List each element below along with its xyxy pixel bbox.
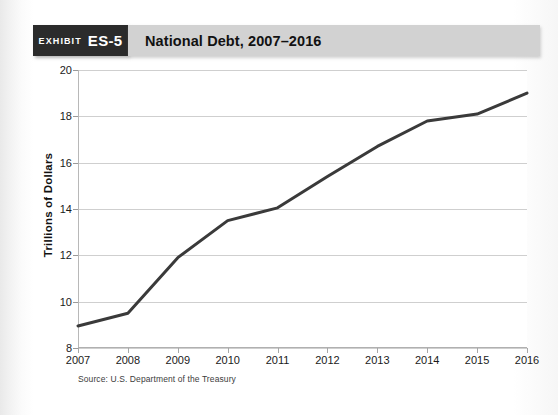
x-tick-label-2007: 2007 — [66, 354, 90, 366]
exhibit-label: EXHIBIT — [39, 36, 82, 46]
x-tick-mark-2016 — [527, 348, 528, 353]
source-note: Source: U.S. Department of the Treasury — [78, 374, 236, 384]
x-tick-label-2012: 2012 — [315, 354, 339, 366]
exhibit-header: EXHIBIT ES-5 National Debt, 2007–2016 — [33, 25, 540, 56]
y-tick-label-12: 12 — [60, 249, 72, 261]
y-axis-title: Trillions of Dollars — [39, 62, 57, 348]
x-tick-label-2013: 2013 — [365, 354, 389, 366]
x-tick-mark-2008 — [128, 348, 129, 353]
plot-canvas: 8101214161820 20072008200920102011201220… — [78, 70, 527, 348]
exhibit-badge: EXHIBIT ES-5 — [33, 25, 128, 56]
x-tick-mark-2013 — [377, 348, 378, 353]
gridline-y-8 — [78, 348, 527, 349]
x-tick-label-2015: 2015 — [465, 354, 489, 366]
data-series-national-debt — [78, 70, 527, 348]
y-tick-label-8: 8 — [66, 342, 72, 354]
x-tick-mark-2010 — [228, 348, 229, 353]
x-tick-label-2010: 2010 — [215, 354, 239, 366]
x-tick-label-2011: 2011 — [266, 354, 290, 366]
x-tick-mark-2007 — [78, 348, 79, 353]
x-tick-label-2008: 2008 — [116, 354, 140, 366]
title-banner: National Debt, 2007–2016 — [128, 25, 540, 56]
x-tick-mark-2009 — [178, 348, 179, 353]
x-tick-label-2009: 2009 — [166, 354, 190, 366]
y-tick-label-14: 14 — [60, 203, 72, 215]
y-axis-title-label: Trillions of Dollars — [42, 153, 54, 257]
x-tick-mark-2012 — [327, 348, 328, 353]
y-tick-label-10: 10 — [60, 296, 72, 308]
x-tick-mark-2011 — [278, 348, 279, 353]
x-tick-label-2014: 2014 — [415, 354, 439, 366]
x-tick-mark-2015 — [477, 348, 478, 353]
x-tick-label-2016: 2016 — [515, 354, 539, 366]
y-tick-label-20: 20 — [60, 64, 72, 76]
page-title: National Debt, 2007–2016 — [145, 33, 322, 49]
line-path-national-debt — [78, 93, 527, 326]
x-tick-mark-2014 — [427, 348, 428, 353]
chart-figure: Trillions of Dollars 8101214161820 20072… — [33, 62, 540, 398]
y-tick-label-16: 16 — [60, 157, 72, 169]
plot-area: 8101214161820 20072008200920102011201220… — [78, 70, 527, 348]
exhibit-number: ES-5 — [88, 32, 123, 49]
y-tick-label-18: 18 — [60, 110, 72, 122]
